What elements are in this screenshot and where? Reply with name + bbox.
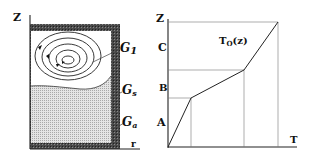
curve-label: TO(z) [219,35,248,48]
zone-label-a: A [156,116,166,129]
right-panel: Z T C B A TO(z) [156,12,298,148]
diagram-canvas: Z G1 Gs Ga r [0,0,309,161]
left-panel: Z G1 Gs Ga r [13,11,140,149]
left-z-axis-label: Z [13,11,21,24]
left-r-axis-label: r [131,139,136,149]
label-ga: Ga [122,115,137,130]
right-z-axis-label: Z [156,12,164,25]
label-g1: G1 [120,41,137,56]
right-t-axis-label: T [290,134,298,145]
zone-label-b: B [159,82,167,93]
label-gs: Gs [122,83,137,98]
zone-label-c: C [158,41,167,54]
